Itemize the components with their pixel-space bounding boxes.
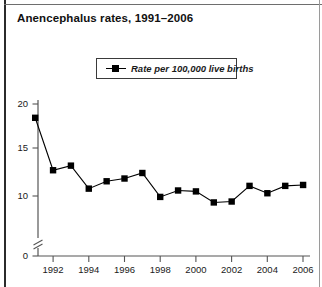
plot-svg [0,0,322,287]
x-tick-label-1998: 1998 [143,264,177,275]
series-line-rate [35,118,303,203]
data-point-2004 [264,190,270,196]
series-markers-group [32,115,306,206]
data-point-1991 [32,115,38,121]
axis-break-icon [34,240,43,249]
y-tick-label-10: 10 [6,190,28,201]
data-point-1997 [139,170,145,176]
data-point-2002 [228,198,234,204]
data-point-1993 [68,162,74,168]
data-point-1996 [121,175,127,181]
y-tick-label-15: 15 [6,142,28,153]
chart-screenshot: Anencephalus rates, 1991–2006 Rate per 1… [0,0,322,287]
data-point-2006 [300,182,306,188]
x-tick-label-1996: 1996 [108,264,142,275]
data-point-1994 [86,185,92,191]
data-point-1992 [50,167,56,173]
x-tick-label-2004: 2004 [250,264,284,275]
x-tick-label-2002: 2002 [215,264,249,275]
data-point-2001 [211,199,217,205]
x-tick-label-2006: 2006 [286,264,320,275]
data-point-1995 [103,178,109,184]
x-tick-label-1992: 1992 [36,264,70,275]
data-point-1998 [157,194,163,200]
plot-area: 0101520 19921994199619982000200220042006 [0,0,322,287]
axes-group [33,100,311,262]
y-tick-label-20: 20 [6,98,28,109]
data-point-2000 [193,188,199,194]
y-tick-label-0: 0 [6,250,28,261]
data-point-2003 [246,183,252,189]
data-point-1999 [175,187,181,193]
data-point-2005 [282,183,288,189]
x-tick-label-1994: 1994 [72,264,106,275]
x-tick-label-2000: 2000 [179,264,213,275]
